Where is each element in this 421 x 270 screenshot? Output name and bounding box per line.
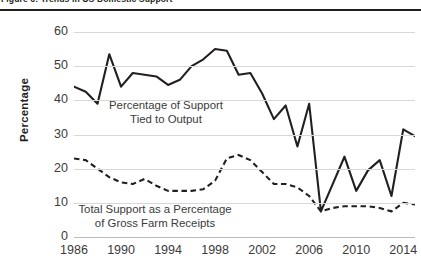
gridline-30: [74, 135, 415, 136]
y-tick-label-40: 40: [8, 92, 68, 106]
y-tick-label-0: 0: [8, 229, 68, 243]
annotation-total-line2: of Gross Farm Receipts: [60, 216, 250, 230]
x-axis-line: [74, 237, 415, 238]
annotation-total-support: Total Support as a Percentage of Gross F…: [60, 202, 250, 230]
gridline-20: [74, 169, 415, 170]
x-axis-labels: 19861990199419982002200620102014: [74, 243, 415, 263]
figure-title-bar: Figure 6: Trends in US Domestic Support: [0, 0, 421, 9]
y-tick-label-10: 10: [8, 195, 68, 209]
x-tick-label-2014: 2014: [373, 243, 421, 257]
gridline-60: [74, 32, 415, 33]
y-axis-title: Percentage: [18, 50, 30, 170]
y-tick-label-50: 50: [8, 58, 68, 72]
y-axis-labels: 0102030405060: [0, 32, 68, 237]
annotation-total-line1: Total Support as a Percentage: [60, 202, 250, 216]
gridline-50: [74, 66, 415, 67]
figure-title: Figure 6: Trends in US Domestic Support: [1, 0, 173, 4]
y-tick-label-30: 30: [8, 127, 68, 141]
title-divider: [0, 9, 421, 11]
annotation-output-line2: Tied to Output: [86, 112, 246, 126]
annotation-support-tied-to-output: Percentage of Support Tied to Output: [86, 98, 246, 126]
y-tick-label-60: 60: [8, 24, 68, 38]
figure-container: Figure 6: Trends in US Domestic Support …: [0, 0, 421, 270]
annotation-output-line1: Percentage of Support: [86, 98, 246, 112]
series-line-support-tied-to-output: [74, 49, 415, 211]
y-tick-label-20: 20: [8, 161, 68, 175]
